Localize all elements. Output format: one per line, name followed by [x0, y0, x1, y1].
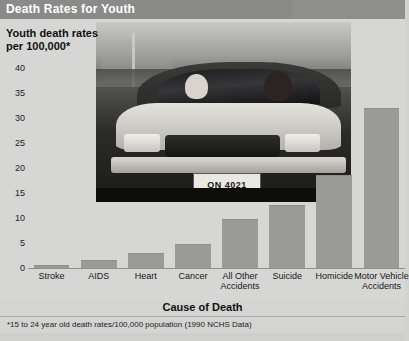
- page-title: Death Rates for Youth: [6, 2, 135, 16]
- bar: [128, 253, 164, 269]
- bar-column: [316, 19, 352, 269]
- x-axis-title: Cause of Death: [0, 301, 405, 313]
- plot-area: ON 4021 Youth death ratesper 100,000* 05…: [0, 19, 405, 301]
- bottom-bar: [0, 333, 405, 341]
- y-tick-label: 0: [3, 264, 25, 273]
- bar: [269, 205, 305, 269]
- title-bar: Death Rates for Youth: [0, 0, 405, 19]
- x-axis-line: [28, 268, 405, 269]
- y-tick-label: 25: [3, 139, 25, 148]
- bar: [316, 175, 352, 269]
- bar-column: [222, 19, 258, 269]
- y-tick-label: 40: [3, 64, 25, 73]
- y-tick-label: 5: [3, 239, 25, 248]
- x-tick-label: Motor Vehicle Accidents: [354, 271, 409, 291]
- bar-series: [28, 19, 405, 269]
- y-tick-label: 10: [3, 214, 25, 223]
- bar-column: [269, 19, 305, 269]
- bar: [175, 244, 211, 269]
- bar: [364, 108, 400, 269]
- y-tick-label: 35: [3, 89, 25, 98]
- y-tick-label: 30: [3, 114, 25, 123]
- bar-column: [128, 19, 164, 269]
- y-axis-ticks: 0510152025303540: [0, 19, 25, 279]
- bar-column: [175, 19, 211, 269]
- footnote: *15 to 24 year old death rates/100,000 p…: [7, 320, 252, 329]
- bar-column: [34, 19, 70, 269]
- bar-column: [364, 19, 400, 269]
- bar: [222, 219, 258, 269]
- footnote-divider: [0, 316, 405, 317]
- x-axis-tick-labels: StrokeAIDSHeartCancerAll Other Accidents…: [28, 271, 405, 301]
- bar-column: [81, 19, 117, 269]
- y-tick-label: 20: [3, 164, 25, 173]
- y-tick-label: 15: [3, 189, 25, 198]
